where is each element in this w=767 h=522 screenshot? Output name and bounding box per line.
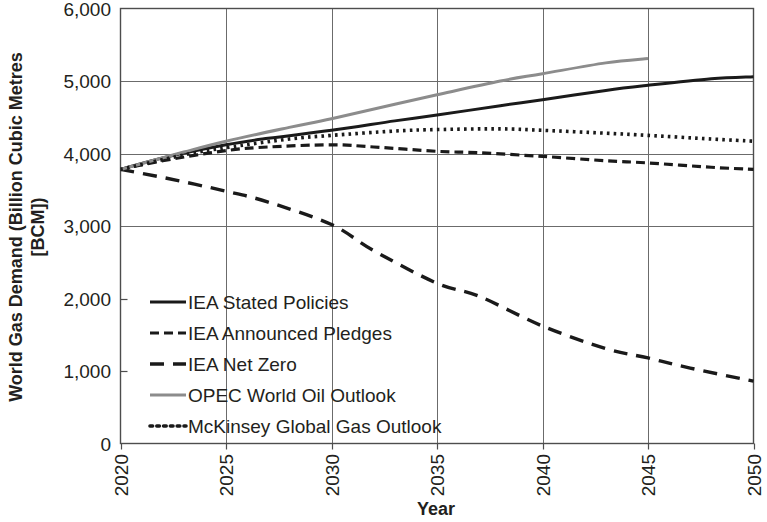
x-axis-tick-labels: 2020202520302035204020452050 <box>111 454 765 496</box>
chart-figure: World Gas Demand (Billion Cubic Metres [… <box>0 0 767 522</box>
legend-item: IEA Stated Policies <box>150 292 349 313</box>
x-tick-label: 2035 <box>427 454 448 496</box>
legend-item: IEA Announced Pledges <box>150 323 392 344</box>
legend-item: McKinsey Global Gas Outlook <box>150 416 442 437</box>
y-tick-label: 0 <box>100 434 111 455</box>
chart-legend: IEA Stated PoliciesIEA Announced Pledges… <box>150 292 442 437</box>
y-axis-tick-labels: 01,0002,0003,0004,0005,0006,000 <box>63 0 111 455</box>
y-tick-label: 1,000 <box>63 361 111 382</box>
legend-label: IEA Stated Policies <box>188 292 349 313</box>
y-axis-title-line2: [BCM]) <box>28 198 48 257</box>
x-tick-label: 2040 <box>533 454 554 496</box>
y-tick-label: 3,000 <box>63 216 111 237</box>
x-tick-label: 2020 <box>111 454 132 496</box>
y-axis-title-line1: World Gas Demand (Billion Cubic Metres <box>6 52 26 402</box>
y-tick-label: 2,000 <box>63 289 111 310</box>
x-tick-label: 2025 <box>216 454 237 496</box>
x-axis-title: Year <box>417 499 455 519</box>
legend-label: IEA Net Zero <box>188 354 297 375</box>
legend-item: IEA Net Zero <box>150 354 297 375</box>
y-tick-label: 6,000 <box>63 0 111 20</box>
x-tick-label: 2045 <box>638 454 659 496</box>
x-tick-label: 2050 <box>744 454 765 496</box>
x-tick-label: 2030 <box>322 454 343 496</box>
legend-label: IEA Announced Pledges <box>188 323 392 344</box>
legend-item: OPEC World Oil Outlook <box>150 385 396 406</box>
y-axis-title: World Gas Demand (Billion Cubic Metres [… <box>6 52 48 402</box>
legend-label: McKinsey Global Gas Outlook <box>188 416 442 437</box>
gas-demand-chart: World Gas Demand (Billion Cubic Metres [… <box>0 0 767 522</box>
gridlines <box>121 9 755 450</box>
legend-label: OPEC World Oil Outlook <box>188 385 396 406</box>
series-line <box>121 59 649 170</box>
y-tick-label: 4,000 <box>63 144 111 165</box>
y-tick-label: 5,000 <box>63 71 111 92</box>
